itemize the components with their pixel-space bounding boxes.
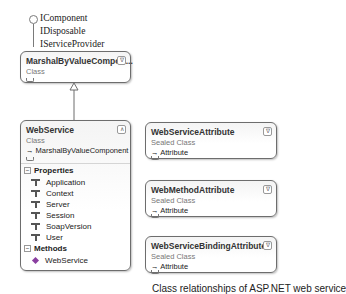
interface-label-icomponent: IComponent xyxy=(40,12,88,25)
property-item[interactable]: Session xyxy=(31,211,74,220)
class-box-webservice[interactable]: WebService Class → MarshalByValueCompone… xyxy=(20,120,131,271)
class-name: WebMethodAttribute xyxy=(151,185,234,195)
lollipop-connector xyxy=(33,24,34,47)
base-class-name: MarshalByValueComponent xyxy=(36,146,129,155)
figure-caption: Class relationships of ASP.NET web servi… xyxy=(152,283,346,294)
shape-icon xyxy=(151,214,159,218)
class-type: Class xyxy=(26,136,45,145)
section-label: Properties xyxy=(34,166,74,175)
collapse-icon[interactable]: ∇ xyxy=(263,127,272,136)
section-label: Methods xyxy=(34,244,67,253)
class-box-webservicebindingattribute[interactable]: WebServiceBindingAttribute Sealed Class … xyxy=(145,236,277,273)
base-class-name: Attribute xyxy=(160,262,188,271)
inheritance-arrow xyxy=(68,82,80,120)
class-box-webmethodattribute[interactable]: WebMethodAttribute Sealed Class → Attrib… xyxy=(145,180,277,217)
property-item[interactable]: Application xyxy=(31,178,85,187)
class-type: Class xyxy=(26,67,45,76)
collapse-icon[interactable]: ∧ xyxy=(117,125,126,134)
class-box-webserviceattribute[interactable]: WebServiceAttribute Sealed Class → Attri… xyxy=(145,122,277,159)
class-box-marshalbyvaluecomponent[interactable]: MarshalByValueCompon... Class ∇ xyxy=(20,51,131,83)
interface-label-idisposable: IDisposable xyxy=(40,25,85,38)
class-name: WebServiceBindingAttribute xyxy=(151,241,266,251)
shape-icon xyxy=(26,78,34,82)
interface-lollipop-icon xyxy=(29,15,38,24)
section-properties[interactable]: –Properties xyxy=(24,166,74,175)
property-name: User xyxy=(46,233,63,242)
collapse-section-icon[interactable]: – xyxy=(24,167,31,174)
property-name: SoapVersion xyxy=(46,222,91,231)
section-divider xyxy=(21,163,130,164)
collapse-icon[interactable]: ∇ xyxy=(263,241,272,250)
method-icon xyxy=(32,257,39,264)
property-name: Session xyxy=(46,211,74,220)
property-icon xyxy=(31,190,40,197)
method-name: WebService xyxy=(45,256,88,265)
property-icon xyxy=(31,201,40,208)
property-icon xyxy=(31,223,40,230)
shape-icon xyxy=(151,156,159,160)
triangle-arrow-icon xyxy=(68,82,80,120)
property-item[interactable]: Server xyxy=(31,200,70,209)
property-icon xyxy=(31,179,40,186)
shape-icon xyxy=(26,157,34,161)
method-item[interactable]: WebService xyxy=(31,256,88,265)
collapse-icon[interactable]: ∇ xyxy=(117,56,126,65)
property-icon xyxy=(31,212,40,219)
property-item[interactable]: User xyxy=(31,233,63,242)
shape-icon xyxy=(151,270,159,274)
section-methods[interactable]: –Methods xyxy=(24,244,67,253)
property-name: Context xyxy=(46,189,74,198)
property-name: Application xyxy=(46,178,85,187)
collapse-section-icon[interactable]: – xyxy=(24,245,31,252)
class-type: Sealed Class xyxy=(151,252,195,261)
property-icon xyxy=(31,234,40,241)
property-item[interactable]: SoapVersion xyxy=(31,222,91,231)
base-class-name: Attribute xyxy=(160,206,188,215)
class-name: WebService xyxy=(26,125,74,135)
base-class-name: Attribute xyxy=(160,148,188,157)
collapse-icon[interactable]: ∇ xyxy=(263,185,272,194)
property-item[interactable]: Context xyxy=(31,189,74,198)
base-class-label: → MarshalByValueComponent xyxy=(26,146,128,155)
class-name: WebServiceAttribute xyxy=(151,127,234,137)
property-name: Server xyxy=(46,200,70,209)
class-type: Sealed Class xyxy=(151,196,195,205)
class-type: Sealed Class xyxy=(151,138,195,147)
interface-label-iserviceprovider: IServiceProvider xyxy=(40,38,104,51)
